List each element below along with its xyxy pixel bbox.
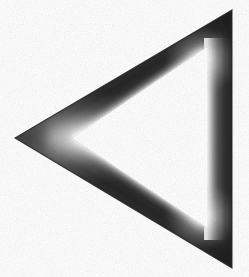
triangle-ring-figure [0, 0, 249, 277]
figure-canvas: A thick-bordered triangle pointing left,… [0, 0, 249, 277]
